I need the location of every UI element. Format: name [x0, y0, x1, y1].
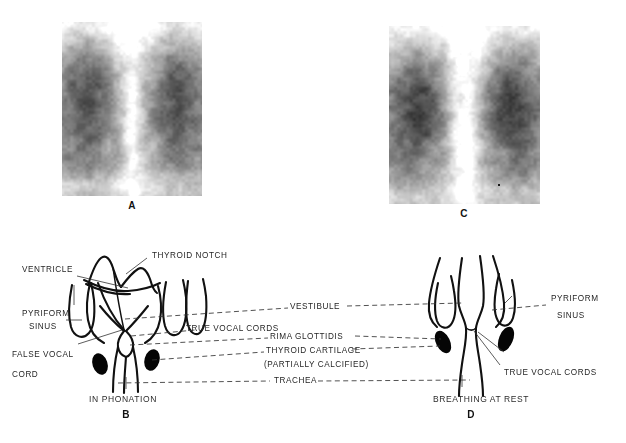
label-trachea: TRACHEA — [274, 375, 317, 386]
label-false-vocal-cord-1: FALSE VOCAL — [12, 349, 74, 360]
leader-d-vestibule — [347, 303, 462, 306]
label-vestibule: VESTIBULE — [290, 301, 340, 312]
cord-blob-left-d — [431, 328, 454, 356]
leader-d-trachea — [318, 380, 470, 381]
leader-d-thyroid — [352, 346, 440, 349]
label-pyriform-sinus-left-1: PYRIFORM — [22, 308, 70, 319]
label-pyriform-sinus-left-2: SINUS — [29, 321, 57, 332]
label-partially-calcified: (PARTIALLY CALCIFIED) — [264, 359, 369, 370]
caption-panel-b: IN PHONATION — [89, 394, 157, 404]
leader-d-pyriform-tick — [505, 296, 512, 303]
plate-letter-d: D — [456, 409, 486, 420]
label-true-vocal-cords-d: TRUE VOCAL CORDS — [504, 367, 597, 378]
cord-blob-right-d — [495, 324, 518, 353]
plate-letter-b: B — [111, 409, 141, 420]
label-rima-glottidis: RIMA GLOTTIDIS — [270, 331, 343, 342]
caption-panel-d: BREATHING AT REST — [433, 394, 529, 404]
label-thyroid-notch: THYROID NOTCH — [152, 250, 227, 261]
label-thyroid-cartilage: THYROID CARTILAGE — [266, 345, 361, 356]
leader-d-pyriform — [492, 305, 546, 310]
label-ventricle: VENTRICLE — [22, 264, 73, 275]
label-true-vocal-cords-b: TRUE VOCAL CORDS — [186, 323, 279, 334]
label-pyriform-sinus-right-1: PYRIFORM — [551, 293, 599, 304]
label-pyriform-sinus-right-2: SINUS — [557, 310, 585, 321]
label-false-vocal-cord-2: CORD — [12, 369, 38, 380]
leader-d-rima — [355, 336, 441, 339]
